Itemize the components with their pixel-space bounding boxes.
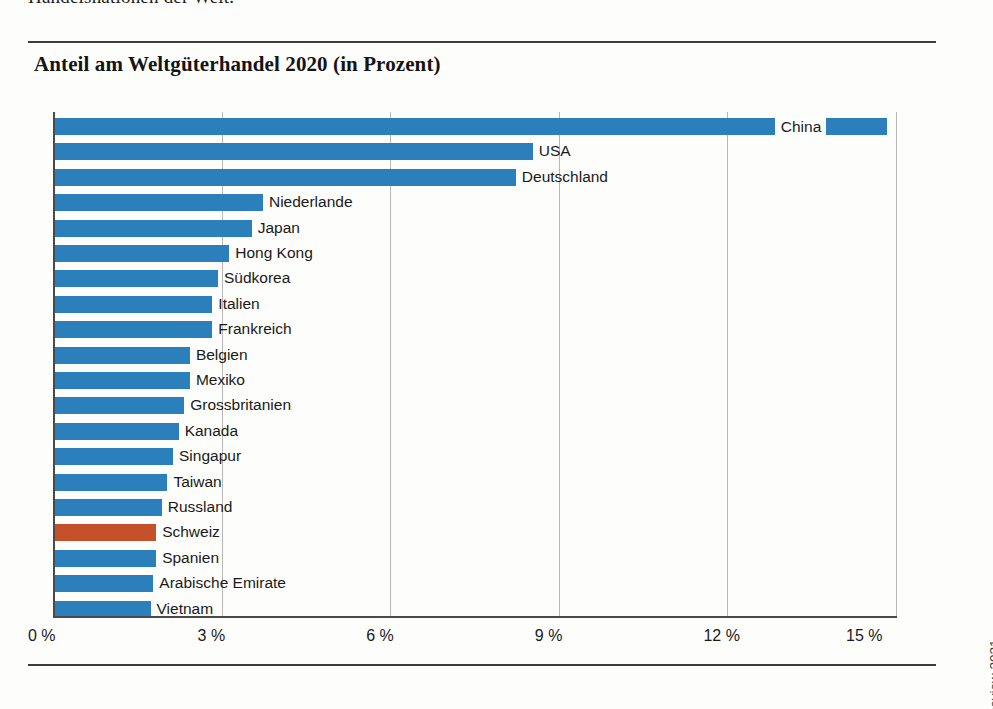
bar-singapur[interactable]	[55, 448, 173, 465]
bar-label-mexiko: Mexiko	[196, 370, 245, 390]
bar-row: China	[55, 118, 898, 135]
bar-label-singapur: Singapur	[179, 446, 241, 466]
bar-label-taiwan: Taiwan	[173, 472, 221, 492]
bar-row: Singapur	[55, 448, 898, 465]
bar-japan[interactable]	[55, 220, 252, 237]
bar-hong-kong[interactable]	[55, 245, 229, 262]
bar-label-hong-kong: Hong Kong	[235, 243, 313, 263]
bar-row: Arabische Emirate	[55, 575, 898, 592]
bar-mexiko[interactable]	[55, 372, 190, 389]
bar-label-niederlande: Niederlande	[269, 192, 353, 212]
chart-title: Anteil am Weltgüterhandel 2020 (in Proze…	[34, 52, 441, 77]
bar-label-belgien: Belgien	[196, 345, 248, 365]
figure-top-rule	[28, 41, 936, 43]
bar-row: Japan	[55, 220, 898, 237]
body-text-above-figure: Handelsnationen der Welt.	[28, 0, 628, 8]
bar-row: USA	[55, 143, 898, 160]
source-note: Quelle: WTO – World Trade Statistical Re…	[987, 639, 993, 709]
chart-plot-area: ChinaUSADeutschlandNiederlandeJapanHong …	[53, 112, 896, 616]
bar-italien[interactable]	[55, 296, 212, 313]
x-tick-label-3: 3 %	[198, 627, 226, 645]
bar-belgien[interactable]	[55, 347, 190, 364]
bar-kanada[interactable]	[55, 423, 179, 440]
bar-china[interactable]	[55, 118, 887, 135]
bar-row: Spanien	[55, 550, 898, 567]
x-tick-label-15: 15 %	[846, 627, 882, 645]
bar-row: Frankreich	[55, 321, 898, 338]
bar-niederlande[interactable]	[55, 194, 263, 211]
bar-row: Taiwan	[55, 474, 898, 491]
bar-label-deutschland: Deutschland	[522, 167, 608, 187]
x-axis-line	[53, 616, 897, 618]
bar-label-usa: USA	[539, 141, 571, 161]
bar-label-spanien: Spanien	[162, 548, 219, 568]
bar-row: Belgien	[55, 347, 898, 364]
bar-label-italien: Italien	[218, 294, 259, 314]
bar-sdkorea[interactable]	[55, 270, 218, 287]
bar-usa[interactable]	[55, 143, 533, 160]
x-tick-label-9: 9 %	[535, 627, 563, 645]
bar-deutschland[interactable]	[55, 169, 516, 186]
bar-row: Grossbritanien	[55, 397, 898, 414]
bar-arabische-emirate[interactable]	[55, 575, 153, 592]
bar-label-arabische-emirate: Arabische Emirate	[159, 573, 286, 593]
bar-row: Mexiko	[55, 372, 898, 389]
bar-label-kanada: Kanada	[185, 421, 238, 441]
bar-taiwan[interactable]	[55, 474, 167, 491]
bar-spanien[interactable]	[55, 550, 156, 567]
bar-grossbritanien[interactable]	[55, 397, 184, 414]
bar-label-sdkorea: Südkorea	[224, 268, 290, 288]
x-tick-label-6: 6 %	[366, 627, 394, 645]
bar-schweiz[interactable]	[55, 524, 156, 541]
bar-russland[interactable]	[55, 499, 162, 516]
bar-label-russland: Russland	[168, 497, 233, 517]
x-tick-label-12: 12 %	[703, 627, 739, 645]
bar-row: Russland	[55, 499, 898, 516]
bar-row: Kanada	[55, 423, 898, 440]
bar-row: Italien	[55, 296, 898, 313]
bar-row: Deutschland	[55, 169, 898, 186]
x-tick-label-0: 0 %	[28, 627, 56, 645]
bar-label-frankreich: Frankreich	[218, 319, 291, 339]
bar-row: Niederlande	[55, 194, 898, 211]
figure-bottom-rule	[28, 664, 936, 666]
bar-row: Schweiz	[55, 524, 898, 541]
bar-row: Hong Kong	[55, 245, 898, 262]
bar-row: Südkorea	[55, 270, 898, 287]
bar-label-schweiz: Schweiz	[162, 522, 220, 542]
bar-frankreich[interactable]	[55, 321, 212, 338]
bar-label-japan: Japan	[258, 218, 300, 238]
bar-label-china: China	[775, 117, 827, 136]
bar-label-grossbritanien: Grossbritanien	[190, 395, 291, 415]
